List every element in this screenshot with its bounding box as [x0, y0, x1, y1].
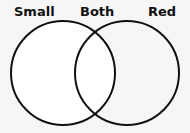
venn-diagram [0, 0, 190, 133]
circle-small [11, 21, 115, 125]
